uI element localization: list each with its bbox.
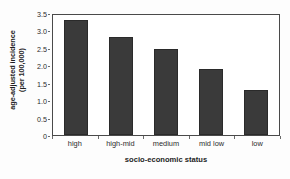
- y-axis-tick-label: 3.0: [37, 27, 47, 36]
- bar-slot: [143, 15, 188, 136]
- x-axis-tick-mark: [280, 136, 281, 139]
- bar[interactable]: [109, 37, 133, 135]
- y-axis-tick-label: 0.5: [37, 114, 47, 123]
- bar[interactable]: [64, 20, 88, 136]
- y-axis-title-line2: (per 100,000): [17, 30, 26, 110]
- y-axis-tick-mark: [48, 119, 51, 120]
- bar[interactable]: [244, 90, 268, 136]
- y-axis-title-line1: age-adjusted incidence: [8, 30, 17, 110]
- x-axis-tick-label: high: [52, 139, 98, 151]
- y-axis-tick-mark: [48, 101, 51, 102]
- x-axis-tick-label: mid low: [189, 139, 235, 151]
- bar[interactable]: [154, 49, 178, 135]
- bar-slot: [53, 15, 98, 136]
- y-axis-tick-label: 2.0: [37, 62, 47, 71]
- y-axis-tick-label: 2.5: [37, 44, 47, 53]
- y-axis-tick-label: 3.5: [37, 9, 47, 18]
- y-axis-title-text: age-adjusted incidence (per 100,000): [8, 30, 26, 110]
- x-axis-tick-labels: highhigh-midmediummid lowlow: [52, 139, 280, 151]
- x-axis-tick-label: low: [234, 139, 280, 151]
- x-axis-tick-label: high-mid: [98, 139, 144, 151]
- y-axis-tick-mark: [48, 14, 51, 15]
- y-axis-tick-mark: [48, 31, 51, 32]
- y-axis-tick-mark: [48, 49, 51, 50]
- y-axis-tick-mark: [48, 66, 51, 67]
- y-axis-tick-label: 1.0: [37, 97, 47, 106]
- bar[interactable]: [199, 69, 223, 135]
- y-axis-tick-mark: [48, 84, 51, 85]
- y-axis-tick-mark: [48, 136, 51, 137]
- bar-slot: [98, 15, 143, 136]
- y-axis-tick-label: 1.5: [37, 79, 47, 88]
- y-axis-tick-labels: 00.51.01.52.02.53.03.5: [28, 11, 50, 137]
- x-axis-tick-label: medium: [143, 139, 189, 151]
- bar-chart-figure: age-adjusted incidence (per 100,000) 00.…: [0, 0, 290, 179]
- plot-area: [52, 14, 280, 137]
- bar-slot: [189, 15, 234, 136]
- bar-slot: [234, 15, 279, 136]
- x-axis-title: socio-economic status: [52, 155, 280, 164]
- bar-series: [53, 15, 279, 136]
- y-axis-tick-label: 0: [43, 132, 47, 141]
